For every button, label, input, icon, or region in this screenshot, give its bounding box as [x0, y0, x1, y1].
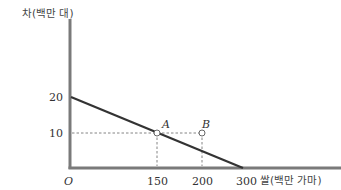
point-a-marker	[154, 130, 160, 136]
y-tick-10: 10	[49, 128, 63, 139]
y-tick-20: 20	[49, 92, 63, 103]
x-tick-300: 300	[236, 176, 257, 187]
y-axis-label: 차(백만 대)	[22, 8, 74, 19]
point-a-label: A	[162, 119, 170, 130]
x-tick-200: 200	[192, 176, 213, 187]
origin-label: O	[64, 176, 73, 187]
point-b-label: B	[202, 119, 210, 130]
x-axis-label: 쌀(백만 가마)	[260, 175, 322, 186]
x-tick-150: 150	[147, 176, 168, 187]
